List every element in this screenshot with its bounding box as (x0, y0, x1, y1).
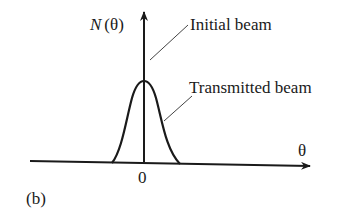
x-tick-zero: 0 (138, 168, 147, 187)
x-axis-label: θ (298, 141, 306, 160)
transmitted-beam-curve (112, 81, 180, 164)
y-axis-label: N(θ) (89, 15, 124, 34)
transmitted-beam-label: Transmitted beam (189, 78, 312, 97)
transmitted-beam-leader (164, 96, 192, 121)
beam-distribution-diagram: N(θ) Initial beam Transmitted beam θ 0 (… (0, 0, 340, 213)
initial-beam-label: Initial beam (190, 15, 272, 34)
x-axis (30, 161, 310, 166)
panel-label: (b) (26, 189, 46, 208)
initial-beam-leader (150, 25, 188, 60)
